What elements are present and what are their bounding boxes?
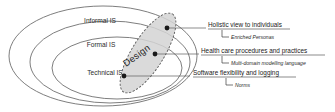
callout-title-health-care: Health care procedures and practices [201,47,307,55]
callout-sub-software-flexibility: Norms [235,82,250,88]
ring-label-informal-is: Informal IS [84,17,116,24]
ring-label-technical-is: Technical IS [87,69,123,76]
dot-holistic-view [165,26,170,31]
dot-health-care [153,52,158,57]
callout-health-care: Health care procedures and practices Mul… [201,47,325,66]
callout-bracket-software-flexibility [226,78,233,85]
callout-title-holistic-view: Holistic view to individuals [208,21,282,28]
dot-software-flexibility [122,74,127,79]
callout-sub-health-care: Multi-domain modelling language [231,60,306,66]
callout-bracket-health-care [222,56,229,63]
ring-label-formal-is: Formal IS [87,41,116,48]
callout-bracket-holistic-view [222,30,229,37]
callout-software-flexibility: Software flexibility and logging Norms [193,69,296,88]
callout-sub-holistic-view: Enriched Personas [231,34,274,40]
diagram-canvas: Informal IS Formal IS Technical IS Desig… [0,0,335,112]
design-is-diagram: Informal IS Formal IS Technical IS Desig… [0,0,335,112]
callout-holistic-view: Holistic view to individuals Enriched Pe… [208,21,290,40]
callout-title-software-flexibility: Software flexibility and logging [193,69,279,77]
